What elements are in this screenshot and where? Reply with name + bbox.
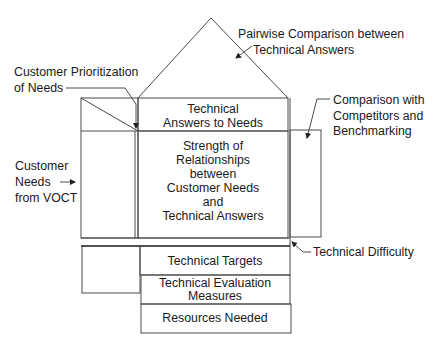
relationships-line5: and xyxy=(203,195,224,209)
customer-needs-line3: from VOCT xyxy=(15,191,78,205)
prioritization-label-line2: of Needs xyxy=(14,81,63,95)
technical-answers-line2: Answers to Needs xyxy=(163,116,263,130)
prioritization-label-line1: Customer Prioritization xyxy=(14,65,139,79)
competitor-label-line3: Benchmarking xyxy=(333,124,412,138)
customer-needs-room xyxy=(81,98,138,238)
resources-needed-text: Resources Needed xyxy=(162,311,267,325)
relationships-line2: Relationships xyxy=(176,153,250,167)
technical-targets-text: Technical Targets xyxy=(168,254,263,268)
roof-label-line1: Pairwise Comparison between xyxy=(238,27,404,41)
lower-left-box xyxy=(82,246,140,293)
competitor-room xyxy=(290,130,321,237)
roof-label-line2: Technical Answers xyxy=(253,43,354,57)
relationships-line4: Customer Needs xyxy=(167,181,259,195)
prioritization-arrow xyxy=(66,88,136,128)
relationships-line1: Strength of xyxy=(183,139,244,153)
technical-answers-line1: Technical xyxy=(187,102,238,116)
left-room-diagonal xyxy=(81,98,138,131)
competitor-arrow xyxy=(307,99,330,138)
technical-difficulty-arrow xyxy=(292,242,311,252)
evaluation-line1: Technical Evaluation xyxy=(159,276,271,290)
competitor-label-line2: Competitors and xyxy=(333,109,423,123)
relationships-line6: Technical Answers xyxy=(162,209,263,223)
customer-needs-line1: Customer xyxy=(15,159,68,173)
customer-needs-line2: Needs xyxy=(15,175,51,189)
technical-difficulty-label: Technical Difficulty xyxy=(313,245,415,259)
roof-arrow xyxy=(236,46,252,58)
evaluation-line2: Measures xyxy=(188,289,242,303)
house-of-quality-diagram: Technical Answers to Needs Strength of R… xyxy=(0,0,437,342)
competitor-label-line1: Comparison with xyxy=(333,93,425,107)
relationships-line3: between xyxy=(190,167,237,181)
